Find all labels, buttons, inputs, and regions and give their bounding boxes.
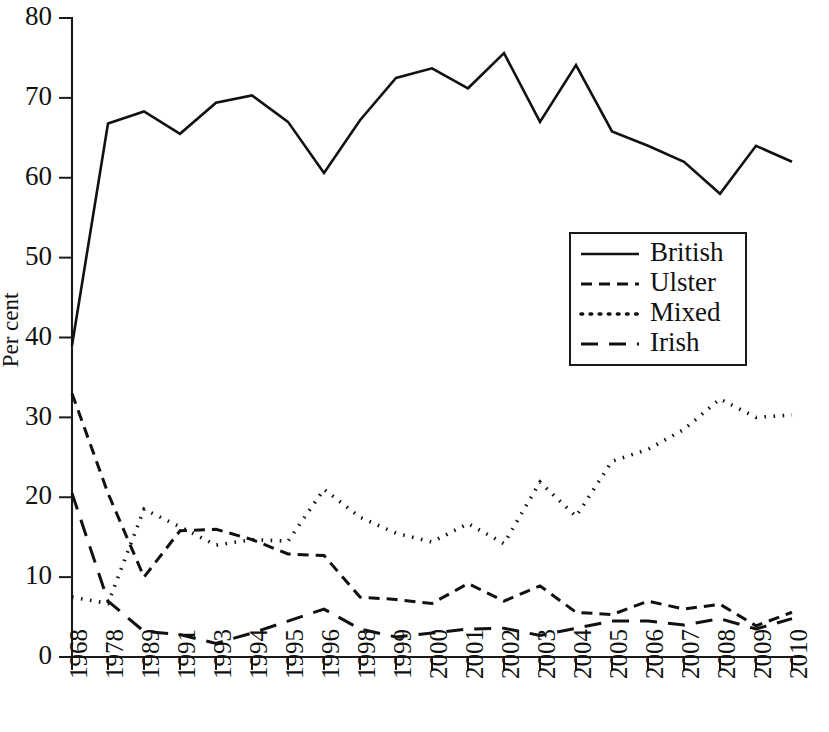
y-tick-label: 80 xyxy=(25,1,52,31)
y-tick-label: 60 xyxy=(25,161,52,191)
x-tick-label: 2000 xyxy=(425,629,452,679)
legend-label-mixed: Mixed xyxy=(650,297,721,327)
x-tick-label: 2004 xyxy=(569,629,596,680)
x-tick-label: 2003 xyxy=(533,629,560,679)
legend-label-british: British xyxy=(650,237,724,267)
y-tick-label: 0 xyxy=(39,640,53,670)
x-tick-label: 2001 xyxy=(461,629,488,679)
x-tick-label: 1998 xyxy=(353,629,380,679)
y-tick-label: 20 xyxy=(25,480,52,510)
y-tick-label: 70 xyxy=(25,81,52,111)
x-tick-label: 2006 xyxy=(641,629,668,679)
x-tick-label: 1989 xyxy=(137,629,164,679)
y-axis-title: Per cent xyxy=(0,292,23,367)
legend-label-ulster: Ulster xyxy=(650,267,716,297)
y-tick-label: 10 xyxy=(25,560,52,590)
x-tick-label: 1995 xyxy=(281,629,308,679)
line-chart: 01020304050607080 1968197819891991199319… xyxy=(0,0,829,732)
x-tick-label: 2009 xyxy=(749,629,776,679)
y-axis-title-text: Per cent xyxy=(0,292,23,367)
chart-legend: BritishUlsterMixedIrish xyxy=(570,233,746,365)
x-tick-label: 2008 xyxy=(713,629,740,679)
chart-container: 01020304050607080 1968197819891991199319… xyxy=(0,0,829,732)
series-line-irish xyxy=(72,493,792,643)
x-tick-label: 1968 xyxy=(65,629,92,679)
x-tick-label: 2002 xyxy=(497,629,524,679)
y-tick-labels: 01020304050607080 xyxy=(25,1,52,670)
y-tick-label: 40 xyxy=(25,321,52,351)
series-line-mixed xyxy=(72,399,792,603)
x-tick-label: 2005 xyxy=(605,629,632,679)
x-tick-labels: 1968197819891991199319941995199619981999… xyxy=(65,629,812,680)
x-tick-label: 1996 xyxy=(317,629,344,679)
series-line-ulster xyxy=(72,393,792,625)
y-tick-label: 30 xyxy=(25,401,52,431)
x-tick-label: 1978 xyxy=(101,629,128,679)
x-tick-label: 1994 xyxy=(245,629,272,680)
legend-label-irish: Irish xyxy=(650,327,700,357)
x-tick-label: 2007 xyxy=(677,629,704,679)
x-tick-label: 1993 xyxy=(209,629,236,679)
y-tick-label: 50 xyxy=(25,241,52,271)
x-tick-label: 2010 xyxy=(785,629,812,679)
